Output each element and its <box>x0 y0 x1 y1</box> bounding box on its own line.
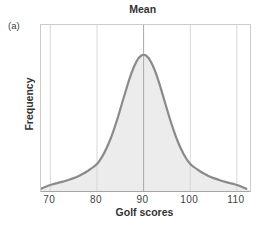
x-axis-label: Golf scores <box>40 206 249 218</box>
x-tick-100: 100 <box>180 194 198 205</box>
x-tick-110: 110 <box>227 194 244 205</box>
plot-area <box>40 24 251 192</box>
bell-curve-plot <box>41 25 250 191</box>
chart-title: Mean <box>129 3 156 15</box>
x-tick-70: 70 <box>43 194 55 205</box>
curve-area-fill <box>41 55 250 191</box>
figure-normal-distribution: (a) Mean Frequency 708090100110 Golf sco… <box>0 0 267 227</box>
y-axis-label: Frequency <box>23 77 35 130</box>
x-tick-80: 80 <box>90 194 102 205</box>
panel-label: (a) <box>8 20 20 31</box>
x-axis-tick-labels: 708090100110 <box>0 194 267 206</box>
x-tick-90: 90 <box>137 194 149 205</box>
